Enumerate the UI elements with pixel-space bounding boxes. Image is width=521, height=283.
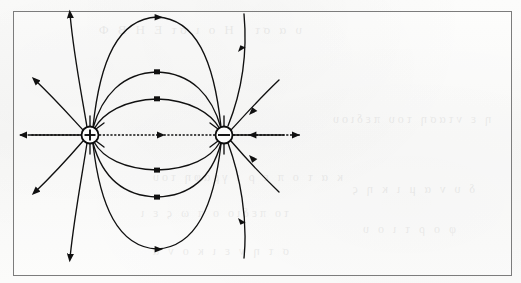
arc-lower-inner xyxy=(94,142,220,170)
arc-arrow-lower-outer xyxy=(155,246,163,253)
escape-up-left-outer xyxy=(35,80,83,130)
positive-charge[interactable] xyxy=(82,127,99,144)
axis-arrow-left xyxy=(19,132,27,139)
arc-marker-lower-middle xyxy=(154,195,160,200)
enter-down-right-steep xyxy=(228,143,245,258)
arc-marker-lower-inner xyxy=(154,168,160,173)
scanned-page: υ α στ | Η ο ι στ Ε Η Β Φ κ α τ ο π ε ρ … xyxy=(0,0,521,283)
escape-up-left-steep xyxy=(70,14,87,127)
axis-arrow-middle xyxy=(157,132,165,139)
arc-arrow-upper-outer xyxy=(155,14,163,21)
arc-marker-upper-inner xyxy=(154,96,160,101)
electric-dipole-field-diagram xyxy=(0,0,521,283)
connecting-arcs-upper xyxy=(93,14,221,129)
enter-up-right-outer xyxy=(231,80,279,130)
arc-upper-inner xyxy=(94,99,220,129)
connecting-arcs-lower xyxy=(93,142,221,253)
arrow-enter-right-horizontal xyxy=(248,132,256,139)
axis-arrow-right xyxy=(292,132,300,139)
enter-up-right-steep xyxy=(228,14,245,126)
escape-down-left-outer xyxy=(35,141,83,192)
arc-marker-upper-middle xyxy=(154,69,160,74)
enter-down-right-outer xyxy=(231,141,279,192)
escape-down-left-steep xyxy=(70,143,87,258)
negative-charge[interactable] xyxy=(216,127,233,144)
